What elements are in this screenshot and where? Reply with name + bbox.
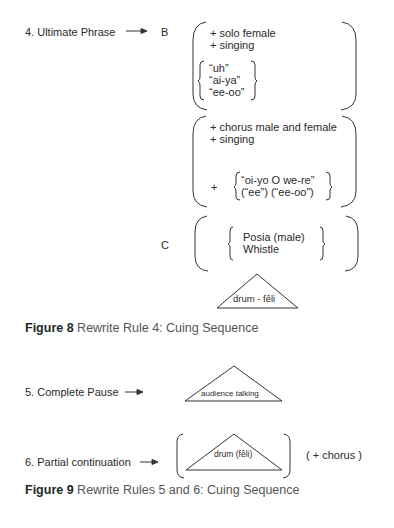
rule4-c-label: C [161,239,169,251]
figure9-caption-text: Rewrite Rules 5 and 6: Cuing Sequence [77,483,299,497]
rule4-label: 4. Ultimate Phrase [25,26,115,38]
b2-line-singing: + singing [210,133,254,145]
c-option-whistle: Whistle [243,243,279,255]
b1-vocable-ee-oo: “ee-oo” [209,86,244,98]
rule6-optional-chorus: ( + chorus ) [306,449,362,461]
figure8-number: Figure 8 [25,321,74,335]
b1-vocable-ai-ya: “ai-ya” [209,74,240,86]
arrow-right-icon [126,29,147,34]
c-option-posia: Posia (male) [243,231,305,243]
b2-plus: + [211,181,217,193]
rule5-label: 5. Complete Pause [25,386,119,398]
figure9-caption: Figure 9 Rewrite Rules 5 and 6: Cuing Se… [25,483,299,497]
b1-vocable-uh: “uh” [209,62,229,74]
b1-line-singing: + singing [210,39,254,51]
audience-talking-label: audience talking [201,389,259,398]
drum-feli-rule6-label: drum (fêli) [214,450,252,459]
arrow-right-icon [125,390,143,395]
b1-line-solo-female: + solo female [210,27,276,39]
rule6-label: 6. Partial continuation [25,456,131,468]
figure8-caption-text: Rewrite Rule 4: Cuing Sequence [77,321,258,335]
b2-vocable-ee: (“ee”) (“ee-oo”) [241,186,314,198]
figure9-number: Figure 9 [25,483,74,497]
figure8-caption: Figure 8 Rewrite Rule 4: Cuing Sequence [25,321,258,335]
b2-vocable-oi-yo: “oi-yo O we-re” [241,174,314,186]
b2-line-chorus: + chorus male and female [210,121,337,133]
drum-feli-label: drum - fêli [233,294,275,304]
rule4-b-label: B [161,26,168,38]
arrow-right-icon [140,460,158,465]
